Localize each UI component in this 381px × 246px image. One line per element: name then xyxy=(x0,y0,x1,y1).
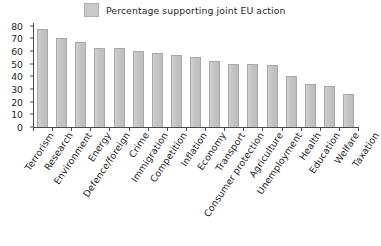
bar-slot xyxy=(167,26,186,128)
y-tick-label-20: 20 xyxy=(11,96,23,107)
x-tick-mark xyxy=(320,127,321,131)
bar-environment xyxy=(75,42,86,127)
bar-research xyxy=(56,38,67,127)
bar-series xyxy=(33,26,358,128)
x-tick-mark xyxy=(339,127,340,131)
x-tick-mark xyxy=(262,127,263,131)
x-tick-mark xyxy=(358,127,359,131)
bar-slot xyxy=(186,26,205,128)
y-tick-label-70: 70 xyxy=(11,33,23,44)
x-tick-mark xyxy=(90,127,91,131)
bar-slot xyxy=(320,26,339,128)
legend-swatch-icon xyxy=(84,3,99,17)
bar-inflation xyxy=(190,57,201,127)
bar-slot xyxy=(148,26,167,128)
bar-slot xyxy=(224,26,243,128)
x-tick-mark xyxy=(33,127,34,131)
bar-agriculture xyxy=(267,65,278,127)
clipped-caption xyxy=(0,241,369,246)
bar-consumer-protection xyxy=(247,64,258,127)
bar-slot xyxy=(129,26,148,128)
x-tick-mark xyxy=(71,127,72,131)
x-tick-mark xyxy=(186,127,187,131)
x-tick-mark xyxy=(52,127,53,131)
x-axis-line xyxy=(33,127,359,128)
bar-slot xyxy=(339,26,358,128)
x-tick-mark xyxy=(282,127,283,131)
bar-slot xyxy=(263,26,282,128)
y-tick-label-10: 10 xyxy=(11,109,23,120)
bar-slot xyxy=(71,26,90,128)
y-tick-label-30: 30 xyxy=(11,83,23,94)
chart-legend: Percentage supporting joint EU action xyxy=(84,3,286,17)
bar-slot xyxy=(282,26,301,128)
bar-slot xyxy=(243,26,262,128)
bar-slot xyxy=(301,26,320,128)
y-tick-label-0: 0 xyxy=(17,122,23,133)
bar-slot xyxy=(90,26,109,128)
bar-education xyxy=(324,86,335,127)
bar-terrorism xyxy=(37,29,48,127)
bar-slot xyxy=(52,26,71,128)
x-tick-mark xyxy=(224,127,225,131)
bar-slot xyxy=(110,26,129,128)
bar-transport xyxy=(228,64,239,127)
x-tick-mark xyxy=(167,127,168,131)
x-tick-mark xyxy=(243,127,244,131)
y-tick-label-50: 50 xyxy=(11,58,23,69)
bar-slot xyxy=(205,26,224,128)
bar-crime xyxy=(133,51,144,127)
y-tick-label-80: 80 xyxy=(11,20,23,31)
y-tick-label-60: 60 xyxy=(11,45,23,56)
legend-label: Percentage supporting joint EU action xyxy=(106,5,286,16)
x-tick-mark xyxy=(148,127,149,131)
bar-defence-foreign xyxy=(114,48,125,127)
bar-unemployment xyxy=(286,76,297,127)
plot-area: 01020304050607080 xyxy=(33,26,358,128)
x-tick-mark xyxy=(205,127,206,131)
x-tick-mark xyxy=(129,127,130,131)
bar-competition xyxy=(171,55,182,127)
y-tick-label-40: 40 xyxy=(11,71,23,82)
bar-energy xyxy=(94,48,105,127)
bar-immigration xyxy=(152,53,163,127)
bar-health xyxy=(305,84,316,127)
x-tick-mark xyxy=(301,127,302,131)
x-tick-mark xyxy=(109,127,110,131)
bar-economy xyxy=(209,61,220,127)
bar-slot xyxy=(33,26,52,128)
bar-welfare xyxy=(343,94,354,127)
